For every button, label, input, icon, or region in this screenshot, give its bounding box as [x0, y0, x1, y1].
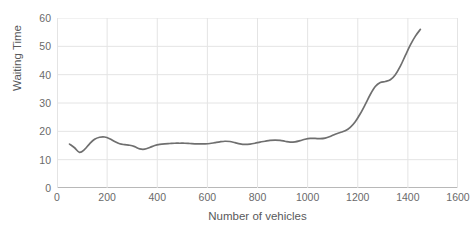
series-path: [70, 29, 421, 152]
y-tick-label: 10: [5, 154, 51, 165]
x-axis-title: Number of vehicles: [57, 210, 458, 222]
waiting-time-line-chart: Waiting Time 0102030405060 0200400600800…: [0, 0, 474, 246]
y-axis-tick-labels: 0102030405060: [0, 18, 51, 188]
y-tick-label: 60: [5, 13, 51, 24]
y-tick-label: 30: [5, 98, 51, 109]
data-series-line: [57, 18, 458, 188]
y-tick-label: 50: [5, 41, 51, 52]
y-tick-label: 40: [5, 69, 51, 80]
x-tick-label: 1600: [428, 191, 474, 204]
x-axis-tick-labels: 02004006008001000120014001600: [57, 191, 458, 207]
y-tick-label: 20: [5, 126, 51, 137]
plot-area: [57, 18, 458, 188]
